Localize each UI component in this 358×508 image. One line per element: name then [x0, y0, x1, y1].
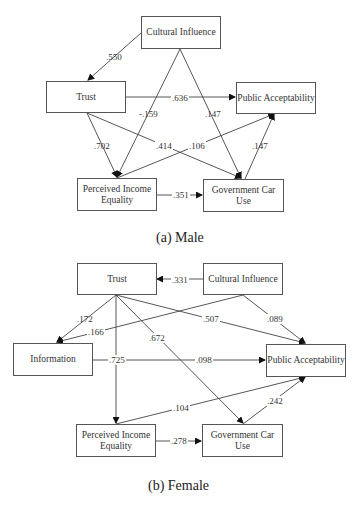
node-label: Trust	[107, 274, 127, 285]
male-coef-trust-gcu: .414	[155, 141, 173, 151]
female-caption: (b) Female	[148, 478, 209, 494]
female-coef-pie-pa: .104	[172, 403, 190, 413]
female-coef-ci-info: .166	[87, 327, 105, 337]
node-label: Perceived Income Equality	[77, 430, 155, 452]
node-label: Government Car Use	[203, 430, 282, 452]
female-coef-trust-gcu: .672	[148, 333, 166, 343]
female-coef-trust-pie: .725	[108, 355, 126, 365]
male-coef-ci-trust: .550	[105, 52, 123, 62]
female-coef-info-pa: .098	[195, 355, 213, 365]
node-label: Perceived Income Equality	[78, 184, 156, 206]
male-coef-trust-pie: .702	[93, 141, 111, 151]
male-coef-gcu-pa: .147	[251, 141, 269, 151]
female-coef-trust-info: .172	[76, 314, 94, 324]
female-coef-ci-pa: .089	[266, 314, 284, 324]
male-coef-pie-gcu: .351	[172, 190, 190, 200]
female-node-perceived-income-equality: Perceived Income Equality	[76, 424, 156, 457]
male-caption: (a) Male	[156, 230, 204, 246]
female-node-trust: Trust	[77, 263, 157, 295]
node-label: Public Acceptability	[267, 355, 344, 366]
node-label: Public Acceptability	[237, 93, 314, 104]
female-node-information: Information	[13, 343, 93, 376]
node-label: Cultural Influence	[146, 27, 215, 38]
female-node-government-car-use: Government Car Use	[202, 424, 283, 457]
male-coef-ci-pie: -.159	[138, 109, 159, 119]
male-coef-ci-gcu: .147	[204, 109, 222, 119]
male-node-trust: Trust	[46, 81, 126, 113]
node-label: Trust	[76, 92, 96, 103]
female-coef-gcu-pa: .242	[266, 396, 284, 406]
male-coef-pie-pa: .106	[188, 141, 206, 151]
node-label: Cultural Influence	[208, 274, 277, 285]
path-diagram-lines	[0, 0, 358, 508]
node-label: Information	[30, 354, 75, 365]
female-coef-trust-pa: .507	[202, 314, 220, 324]
male-node-public-acceptability: Public Acceptability	[236, 82, 316, 114]
female-node-public-acceptability: Public Acceptability	[266, 344, 346, 377]
male-node-perceived-income-equality: Perceived Income Equality	[77, 178, 157, 211]
node-label: Government Car Use	[204, 185, 283, 207]
female-node-cultural-influence: Cultural Influence	[203, 263, 283, 295]
female-coef-ci-trust: .331	[171, 275, 189, 285]
male-coef-trust-pa: .636	[171, 93, 189, 103]
male-node-cultural-influence: Cultural Influence	[141, 16, 221, 49]
male-node-government-car-use: Government Car Use	[203, 179, 284, 212]
female-coef-pie-gcu: .278	[170, 436, 188, 446]
